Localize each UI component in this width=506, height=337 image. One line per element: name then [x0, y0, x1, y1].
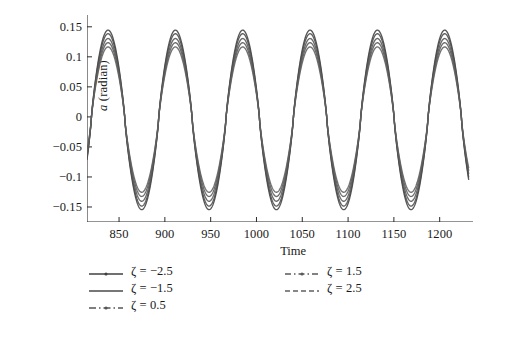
y-tick-label: −0.15: [53, 201, 82, 214]
legend-swatch: [88, 300, 124, 312]
legend-line-swatch: [88, 285, 124, 297]
x-tick-label: 1150: [381, 228, 406, 241]
x-tick-label: 1050: [290, 228, 315, 241]
x-tick-label: 1000: [244, 228, 269, 241]
y-tick-label: 0: [76, 111, 82, 124]
legend: ζ = −2.5ζ = −1.5ζ = 0.5 ζ = 1.5ζ = 2.5: [88, 263, 418, 323]
legend-swatch: [284, 283, 320, 295]
series-line: [87, 39, 469, 202]
x-tick-label: 1100: [336, 228, 361, 241]
plot-area: a (radian) −0.15−0.1−0.0500.050.10.15 85…: [87, 16, 469, 222]
legend-entry[interactable]: ζ = −2.5: [88, 263, 173, 280]
x-axis-label: Time: [280, 244, 306, 259]
legend-swatch: [88, 283, 124, 295]
x-tick-label: 950: [201, 228, 220, 241]
legend-swatch: [284, 266, 320, 278]
legend-entry[interactable]: ζ = 0.5: [88, 297, 173, 314]
legend-line-swatch: [284, 285, 320, 297]
series-line: [87, 30, 469, 210]
series-line: [87, 43, 469, 197]
legend-label: ζ = 2.5: [327, 282, 362, 295]
legend-line-swatch: [88, 302, 124, 314]
chart-canvas: [87, 16, 469, 222]
legend-column-left: ζ = −2.5ζ = −1.5ζ = 0.5: [88, 263, 173, 314]
y-tick-label: −0.05: [53, 141, 82, 154]
legend-swatch: [88, 266, 124, 278]
x-tick-label: 850: [110, 228, 129, 241]
legend-label: ζ = 1.5: [327, 265, 362, 278]
legend-line-swatch: [88, 268, 124, 280]
figure: a (radian) −0.15−0.1−0.0500.050.10.15 85…: [0, 0, 506, 337]
legend-label: ζ = −1.5: [131, 282, 173, 295]
legend-label: ζ = −2.5: [131, 265, 173, 278]
legend-entry[interactable]: ζ = 1.5: [284, 263, 362, 280]
legend-column-right: ζ = 1.5ζ = 2.5: [284, 263, 362, 297]
series-line: [87, 34, 469, 206]
x-tick-label: 900: [155, 228, 174, 241]
y-tick-label: 0.15: [60, 21, 82, 34]
legend-entry[interactable]: ζ = −1.5: [88, 280, 173, 297]
y-tick-label: 0.1: [66, 51, 82, 64]
legend-entry[interactable]: ζ = 2.5: [284, 280, 362, 297]
y-tick-label: −0.1: [59, 171, 82, 184]
x-tick-label: 1200: [427, 228, 452, 241]
series-line: [87, 47, 469, 192]
y-tick-label: 0.05: [60, 81, 82, 94]
legend-label: ζ = 0.5: [131, 299, 166, 312]
legend-line-swatch: [284, 268, 320, 280]
